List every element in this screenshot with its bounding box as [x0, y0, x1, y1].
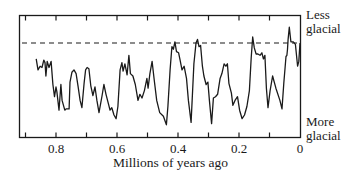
more-label-line1: More [306, 115, 341, 129]
tick-label-0.2: 0.2 [231, 141, 247, 157]
less-label-line2: glacial [306, 22, 341, 36]
tick-label-0: 0 [297, 141, 304, 157]
climate-record-line [36, 27, 300, 125]
less-label-line1: Less [306, 8, 341, 22]
tick-label-0.8: 0.8 [48, 141, 64, 157]
x-axis-ticks [26, 16, 270, 138]
more-glacial-label: More glacial [306, 115, 341, 143]
more-label-line2: glacial [306, 129, 341, 143]
x-axis-title: Millions of years ago [113, 156, 228, 170]
less-glacial-label: Less glacial [306, 8, 341, 36]
plot-frame [20, 16, 301, 138]
